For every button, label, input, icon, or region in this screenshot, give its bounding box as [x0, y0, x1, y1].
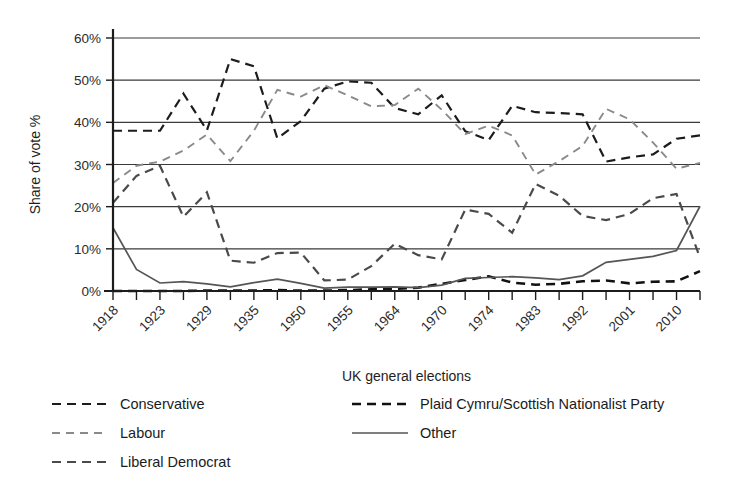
legend-label: Other [420, 425, 456, 441]
legend-label: Conservative [120, 396, 205, 412]
y-tick-label: 60% [74, 31, 101, 46]
x-tick-label: 1950 [277, 303, 309, 335]
y-tick-label-group: 0%10%20%30%40%50%60% [74, 31, 101, 299]
y-tick-label: 10% [74, 242, 101, 257]
x-tick-label: 1992 [559, 303, 591, 335]
y-tick-label: 50% [74, 73, 101, 88]
series-line-labour [113, 85, 700, 183]
y-tick-label: 20% [74, 200, 101, 215]
y-tick-label: 30% [74, 158, 101, 173]
x-tick-group [113, 291, 700, 300]
series-line-other [113, 206, 700, 288]
data-series-group [113, 59, 700, 291]
gridlines-group [113, 38, 700, 249]
legend-label: Plaid Cymru/Scottish Nationalist Party [420, 396, 665, 412]
x-tick-label-group: 1918192319291935195019551964197019741983… [89, 302, 684, 334]
y-axis-title: Share of vote % [27, 115, 43, 215]
y-tick-label: 0% [81, 284, 101, 299]
x-tick-label: 1923 [136, 303, 168, 335]
legend-label: Labour [120, 425, 165, 441]
x-tick-label: 1964 [371, 302, 403, 334]
x-tick-label: 1929 [183, 303, 215, 335]
legend-label: Liberal Democrat [120, 454, 230, 470]
vote-share-line-chart: 0%10%20%30%40%50%60% 1918192319291935195… [0, 0, 750, 498]
x-tick-label: 1918 [89, 303, 121, 335]
y-tick-label: 40% [74, 115, 101, 130]
x-tick-label: 2001 [606, 303, 638, 335]
x-tick-label: 1983 [512, 303, 544, 335]
series-line-liberal-democrat [113, 166, 700, 281]
x-tick-label: 1974 [465, 302, 497, 334]
x-tick-label: 2010 [653, 303, 685, 335]
chart-container: 0%10%20%30%40%50%60% 1918192319291935195… [0, 0, 750, 498]
series-line-conservative [113, 59, 700, 161]
x-tick-label: 1935 [230, 303, 262, 335]
x-axis-title: UK general elections [342, 368, 471, 384]
x-tick-label: 1970 [418, 303, 450, 335]
legend: ConservativeLabourLiberal DemocratPlaid … [52, 396, 665, 470]
x-tick-label: 1955 [324, 303, 356, 335]
